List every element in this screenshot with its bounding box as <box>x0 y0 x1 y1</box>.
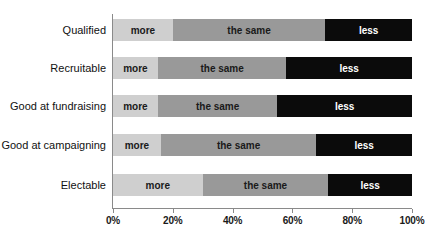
bar-row: morethe sameless <box>113 19 412 41</box>
bar-segment-less: less <box>325 19 412 41</box>
x-axis-tick-mark <box>233 209 234 213</box>
bar-segment-less: less <box>277 95 412 117</box>
bar-segment-same: the same <box>173 19 325 41</box>
x-axis-tick-mark <box>173 209 174 213</box>
x-axis-tick-mark <box>113 209 114 213</box>
y-axis-category-label: Good at campaigning <box>0 134 106 156</box>
x-axis-tick-mark <box>412 209 413 213</box>
stacked-bar-chart: QualifiedRecruitableGood at fundraisingG… <box>0 0 443 242</box>
bar-row: morethe sameless <box>113 57 412 79</box>
x-axis-tick-mark <box>352 209 353 213</box>
bar-segment-more: more <box>113 134 161 156</box>
x-axis-tick-label: 80% <box>342 215 361 226</box>
bar-row: morethe sameless <box>113 174 412 196</box>
bar-segment-same: the same <box>203 174 329 196</box>
bar-segment-more: more <box>113 95 158 117</box>
x-axis-line <box>112 208 412 209</box>
bar-segment-same: the same <box>161 134 316 156</box>
x-axis-tick-label: 40% <box>223 215 242 226</box>
bar-row: morethe sameless <box>113 95 412 117</box>
y-axis-category-label: Qualified <box>0 19 106 41</box>
bar-segment-less: less <box>328 174 412 196</box>
bar-segment-less: less <box>316 134 412 156</box>
bar-segment-same: the same <box>158 57 287 79</box>
bar-segment-less: less <box>286 57 412 79</box>
bar-row: morethe sameless <box>113 134 412 156</box>
bar-segment-same: the same <box>158 95 278 117</box>
bar-segment-more: more <box>113 57 158 79</box>
y-axis-category-label: Recruitable <box>0 57 106 79</box>
x-axis-tick-label: 20% <box>163 215 182 226</box>
x-axis-tick-mark <box>292 209 293 213</box>
x-axis-tick-label: 0% <box>106 215 120 226</box>
x-axis-tick-label: 60% <box>283 215 302 226</box>
y-axis-category-label: Good at fundraising <box>0 95 106 117</box>
bar-segment-more: more <box>113 19 173 41</box>
x-axis-tick-label: 100% <box>400 215 425 226</box>
bar-segment-more: more <box>113 174 203 196</box>
y-axis-category-label: Electable <box>0 174 106 196</box>
